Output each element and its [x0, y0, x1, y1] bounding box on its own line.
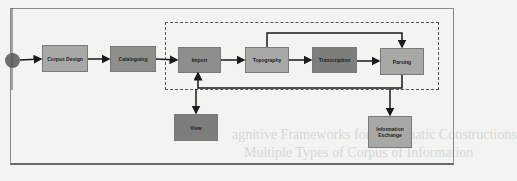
connector-arrows — [0, 0, 462, 181]
